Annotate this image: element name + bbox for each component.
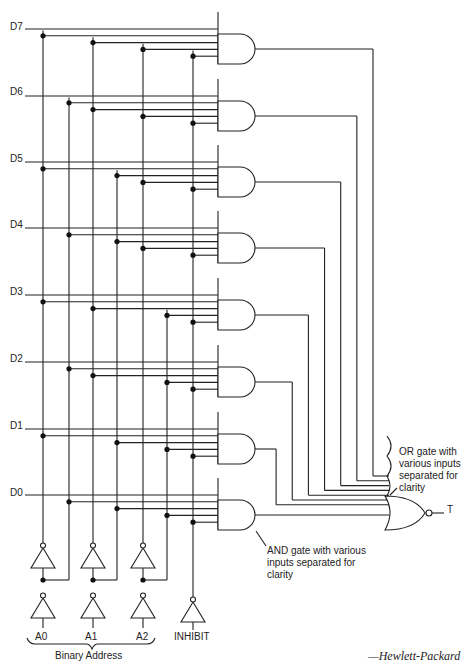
or-note-leader <box>390 488 397 495</box>
junction-dot <box>190 454 195 459</box>
label-d6: D6 <box>10 86 23 97</box>
junction-dot <box>90 373 95 378</box>
inverter-bubble <box>141 543 146 548</box>
junction-dot <box>140 246 145 251</box>
or-note-line-1: OR gate with <box>399 446 457 457</box>
junction-dot <box>190 121 195 126</box>
and-gate <box>218 167 255 197</box>
label-a2: A2 <box>136 631 149 642</box>
junction-dot <box>66 100 71 105</box>
and-gate <box>218 500 255 530</box>
junction-dot <box>190 387 195 392</box>
junction-dot <box>164 447 169 452</box>
junction-dot <box>66 499 71 504</box>
label-d2: D2 <box>10 353 23 364</box>
junction-dot <box>140 577 145 582</box>
and-note-line-1: AND gate with various <box>267 545 366 556</box>
junction-dot <box>114 239 119 244</box>
inverter-bubble <box>191 597 196 602</box>
junction-dot <box>90 306 95 311</box>
address-inverter <box>31 548 55 568</box>
inverter-bubble <box>91 593 96 598</box>
junction-dot <box>90 107 95 112</box>
and-gate <box>218 233 255 263</box>
address-inverter <box>81 548 105 568</box>
junction-dot <box>40 433 45 438</box>
label-d0: D0 <box>10 487 23 498</box>
label-d3: D3 <box>10 286 23 297</box>
or-note-line-4: clarity <box>399 482 425 493</box>
inverter-bubble <box>91 543 96 548</box>
inverter-bubble <box>141 593 146 598</box>
junction-dot <box>190 187 195 192</box>
inhibit-buffer <box>181 602 205 622</box>
label-binary-address: Binary Address <box>55 650 122 661</box>
input-buffer <box>131 598 155 618</box>
inverter-bubble <box>41 593 46 598</box>
junction-dot <box>40 577 45 582</box>
junction-dot <box>164 313 169 318</box>
junction-dot <box>66 232 71 237</box>
label-d4: D4 <box>10 219 23 230</box>
and-note-line-3: clarity <box>267 569 293 580</box>
and-gate <box>218 34 255 64</box>
junction-dot <box>140 47 145 52</box>
junction-dot <box>40 299 45 304</box>
and-gate <box>218 434 255 464</box>
label-d5: D5 <box>10 153 23 164</box>
credit-text: —Hewlett-Packard <box>367 649 461 663</box>
junction-dot <box>164 513 169 518</box>
or-gate-extension <box>387 436 391 496</box>
and-gate <box>218 367 255 397</box>
junction-dot <box>114 440 119 445</box>
input-buffer <box>31 598 55 618</box>
junction-dot <box>40 33 45 38</box>
junction-dot <box>140 180 145 185</box>
junction-dot <box>140 114 145 119</box>
input-buffer <box>81 598 105 618</box>
or-gate <box>385 496 425 530</box>
label-d1: D1 <box>10 420 23 431</box>
and-note-leader <box>256 531 266 546</box>
junction-dot <box>190 520 195 525</box>
label-output-t: T <box>447 504 453 515</box>
junction-dot <box>190 320 195 325</box>
junction-dot <box>66 366 71 371</box>
inverter-bubble <box>41 543 46 548</box>
and-gate <box>218 300 255 330</box>
or-note-line-2: various inputs <box>399 458 461 469</box>
label-a0: A0 <box>35 631 48 642</box>
junction-dot <box>164 380 169 385</box>
and-gate <box>218 101 255 131</box>
and-note-line-2: inputs separated for <box>267 557 356 568</box>
gates <box>31 34 432 622</box>
label-a1: A1 <box>85 631 98 642</box>
inverter-bubble <box>426 510 432 516</box>
junction-dot <box>190 54 195 59</box>
junction-dots <box>40 33 195 582</box>
label-d7: D7 <box>10 21 23 32</box>
junction-dot <box>90 40 95 45</box>
label-inhibit: INHIBIT <box>174 631 210 642</box>
address-inverter <box>131 548 155 568</box>
junction-dot <box>40 166 45 171</box>
or-note-line-3: separated for <box>399 470 459 481</box>
junction-dot <box>114 173 119 178</box>
junction-dot <box>114 506 119 511</box>
multiplexer-diagram: D7 D6 D5 D4 D3 D2 D1 D0 A0 A1 A2 INHIBIT… <box>0 0 471 669</box>
junction-dot <box>190 253 195 258</box>
junction-dot <box>90 577 95 582</box>
